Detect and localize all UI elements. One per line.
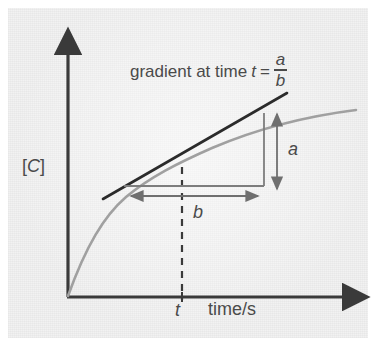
caption-text: gradient at time <box>130 63 247 80</box>
x-axis-tick-label-t: t <box>175 301 180 319</box>
rise-label-a: a <box>288 140 298 158</box>
fraction-numerator: a <box>274 51 287 68</box>
y-axis-label-bracket-close: ] <box>40 156 45 176</box>
caption-variable-t: t <box>251 63 256 80</box>
figure-root: gradient at time t = a b [C] time/s t a … <box>0 0 376 346</box>
y-axis-label-symbol: C <box>27 156 40 176</box>
tangent-line <box>103 93 287 199</box>
fraction-a-over-b: a b <box>274 51 287 89</box>
run-label-b: b <box>193 203 203 221</box>
concentration-curve <box>68 110 356 296</box>
x-axis-label: time/s <box>208 300 256 318</box>
y-axis-label: [C] <box>22 157 45 175</box>
gradient-caption: gradient at time t = a b <box>130 52 287 90</box>
fraction-denominator: b <box>274 72 287 89</box>
caption-equals: = <box>260 63 270 80</box>
